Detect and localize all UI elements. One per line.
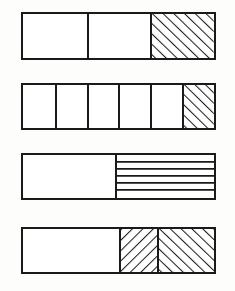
fraction-bar-4 <box>21 227 216 274</box>
bar-1-segment-3-shaded <box>150 14 214 58</box>
bar-2-segment-6-shaded <box>182 85 214 128</box>
bar-4-segment-1 <box>23 229 119 272</box>
bar-3-segment-2-shaded <box>115 155 214 198</box>
bar-1-segment-1 <box>23 14 87 58</box>
bar-2-segment-4 <box>118 85 150 128</box>
fraction-bar-2 <box>21 83 216 130</box>
diagonal-up-hatch-icon <box>159 229 214 272</box>
fraction-bar-diagram <box>0 0 235 291</box>
bar-2-segment-3 <box>87 85 119 128</box>
bar-3-segment-1 <box>23 155 115 198</box>
bar-2-segment-1 <box>23 85 55 128</box>
bar-4-segment-2-shaded <box>119 229 157 272</box>
bar-4-segment-3-shaded <box>157 229 214 272</box>
fraction-bar-3 <box>21 153 216 200</box>
diagonal-down-hatch-icon <box>121 229 157 272</box>
bar-2-segment-5 <box>150 85 182 128</box>
diagonal-up-hatch-icon <box>152 14 214 58</box>
fraction-bar-1 <box>21 12 216 60</box>
diagonal-up-hatch-icon <box>184 85 214 128</box>
bar-2-segment-2 <box>55 85 87 128</box>
horizontal-hatch-icon <box>117 155 214 198</box>
bar-1-segment-2 <box>87 14 151 58</box>
